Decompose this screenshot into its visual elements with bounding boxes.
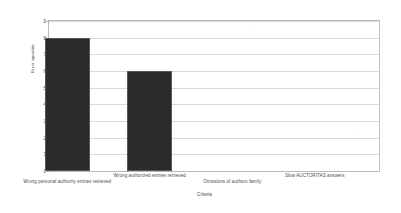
- y-tick-mark: [47, 171, 49, 172]
- plot-area: 0123456789Wrong personal authority entri…: [48, 20, 380, 172]
- x-tick-label: Omissions of authors family: [203, 179, 261, 184]
- gridline: [49, 71, 379, 72]
- x-axis-title: Criteria: [4, 192, 401, 197]
- gridline: [49, 154, 379, 155]
- y-tick-mark: [47, 21, 49, 22]
- gridline: [49, 54, 379, 55]
- y-tick-label: 9: [43, 19, 46, 24]
- gridline: [49, 38, 379, 39]
- gridline: [49, 121, 379, 122]
- bar[interactable]: [127, 71, 172, 171]
- x-tick-label: Slow AUCTORITAS answers: [285, 173, 345, 178]
- y-axis-title: Error quantity: [30, 19, 35, 99]
- x-tick-label: Wrong personal authority entries retriev…: [23, 179, 111, 184]
- gridline: [49, 88, 379, 89]
- x-tick-label: Wrong authorized entries retrieved: [114, 173, 186, 178]
- gridline: [49, 21, 379, 22]
- bar-chart-figure: Error quantity 0123456789Wrong personal …: [0, 0, 401, 213]
- bar[interactable]: [45, 38, 90, 171]
- gridline: [49, 138, 379, 139]
- gridline: [49, 104, 379, 105]
